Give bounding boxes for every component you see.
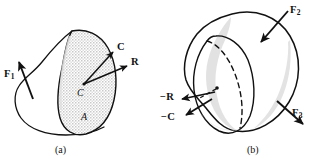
label-force-f1-text: F (4, 68, 11, 79)
label-force-f3-subscript: 3 (299, 111, 303, 120)
force-vector-f1-a (19, 62, 33, 99)
figure-artwork (0, 0, 313, 166)
label-force-f2-subscript: 2 (297, 8, 301, 17)
label-force-f3-text: F (292, 107, 299, 118)
label-force-f2: F2 (290, 5, 301, 16)
label-force-f3: F3 (292, 108, 303, 119)
panel-a-artwork (15, 30, 127, 135)
caption-a: (a) (55, 145, 66, 155)
label-resultant-r: R (131, 57, 139, 68)
label-force-f1-subscript: 1 (11, 72, 15, 81)
label-force-f2-text: F (290, 4, 297, 15)
label-area-a: A (81, 112, 87, 122)
label-reaction-minus-r: −R (160, 92, 174, 103)
label-couple-c: C (117, 42, 125, 53)
panel-b-artwork (182, 11, 303, 133)
figure-container: F1 C R C A (a) F2 F3 −R −C (b) (0, 0, 313, 166)
label-centroid-c: C (77, 88, 84, 98)
label-couple-minus-c: −C (161, 112, 175, 123)
caption-b: (b) (247, 145, 259, 155)
label-force-f1: F1 (4, 69, 15, 80)
